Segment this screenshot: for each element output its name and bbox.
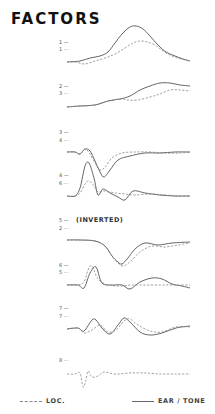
legend-ear-tone-label: EAR / TONE <box>158 397 205 405</box>
legend-loc-label: LOC. <box>46 397 65 405</box>
panel-4-loc-curve <box>67 181 190 196</box>
panel-1-ear-tone-curve <box>67 26 190 62</box>
panel-6-loc-curve <box>67 266 190 286</box>
factor-curves-plot <box>0 0 215 414</box>
panel-8-loc-curve <box>67 371 190 387</box>
solid-line-swatch <box>132 401 154 402</box>
panel-5-loc-curve <box>67 240 190 266</box>
dashed-line-swatch <box>20 401 42 402</box>
panel-2-ear-tone-curve <box>67 83 190 107</box>
legend-ear-tone: EAR / TONE <box>132 397 205 405</box>
panel-2-loc-curve <box>67 90 190 107</box>
panel-5-ear-tone-curve <box>67 240 190 264</box>
panel-7-ear-tone-curve <box>67 318 190 335</box>
legend-loc: LOC. <box>20 397 65 405</box>
panel-4-ear-tone-curve <box>67 162 190 200</box>
panel-1-loc-curve <box>67 41 190 64</box>
panel-3-ear-tone-curve <box>67 149 190 177</box>
